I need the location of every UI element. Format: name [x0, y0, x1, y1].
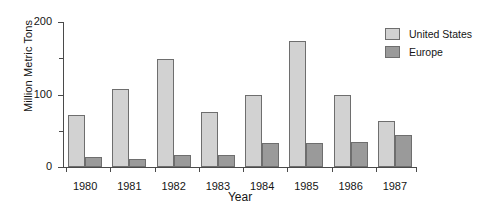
y-tick-label: 100	[34, 88, 52, 100]
x-axis-line	[63, 167, 417, 168]
bar	[68, 115, 85, 167]
bar	[289, 41, 306, 167]
bar	[174, 155, 191, 167]
legend: United States Europe	[385, 26, 472, 62]
y-tick-minor	[59, 58, 64, 59]
legend-label-europe: Europe	[409, 46, 443, 58]
legend-swatch-united-states	[385, 28, 400, 40]
bar	[129, 159, 146, 167]
bar	[334, 95, 351, 168]
bar-chart: Million Metric Tons 0100200 198019811982…	[0, 0, 488, 216]
legend-swatch-europe	[385, 46, 400, 58]
x-tick	[332, 167, 333, 172]
bar	[201, 112, 218, 167]
legend-item-europe: Europe	[385, 44, 472, 60]
bar	[157, 59, 174, 167]
bar	[218, 155, 235, 167]
bar	[262, 143, 279, 167]
x-tick	[243, 167, 244, 172]
x-tick	[287, 167, 288, 172]
y-tick-label: 0	[46, 160, 52, 172]
legend-item-united-states: United States	[385, 26, 472, 42]
x-tick	[416, 167, 417, 172]
legend-label-united-states: United States	[409, 28, 472, 40]
bar	[112, 89, 129, 167]
y-tick-major: 100	[58, 95, 64, 96]
bar	[378, 121, 395, 167]
plot-area: 0100200 19801981198219831984198519861987	[63, 22, 417, 167]
bar	[245, 95, 262, 167]
x-tick	[110, 167, 111, 172]
y-tick-minor	[59, 131, 64, 132]
x-tick	[66, 167, 67, 172]
y-tick-major: 0	[58, 167, 64, 168]
x-tick	[155, 167, 156, 172]
y-tick-label: 200	[34, 15, 52, 27]
x-tick	[199, 167, 200, 172]
bar	[395, 135, 412, 167]
x-tick	[376, 167, 377, 172]
x-axis-title: Year	[63, 190, 417, 204]
bar	[351, 142, 368, 167]
bar	[306, 143, 323, 167]
bar	[85, 157, 102, 167]
y-axis-title: Million Metric Tons	[22, 0, 34, 146]
y-tick-major: 200	[58, 22, 64, 23]
